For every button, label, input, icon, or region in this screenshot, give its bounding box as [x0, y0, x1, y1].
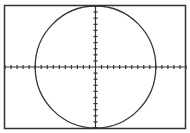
graph-screen — [0, 0, 190, 133]
graph-canvas — [0, 0, 190, 133]
